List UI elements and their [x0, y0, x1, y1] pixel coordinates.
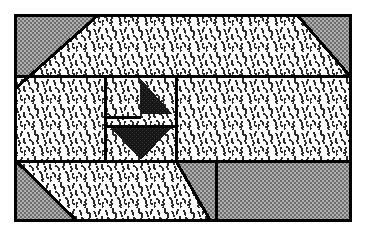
- figure-root: Sectional view diagram: [0, 0, 365, 234]
- middle-hatched-band: [16, 78, 350, 159]
- figure-svg: [0, 0, 365, 234]
